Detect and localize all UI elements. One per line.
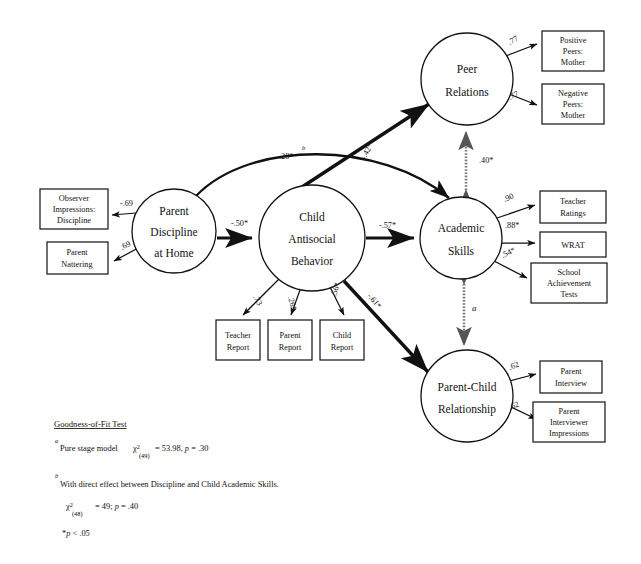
footnote-a-text: Pure stage model xyxy=(60,444,118,453)
observed-label: Nattering xyxy=(61,260,92,269)
coefficient-discipline-to-academic-superscript: b xyxy=(302,144,305,151)
observed-label: Teacher xyxy=(560,197,586,206)
coefficient-academic-teacher-ratings: .90 xyxy=(502,191,515,203)
coefficient-academic-school-tests: .54* xyxy=(500,245,517,259)
latent-label: Parent xyxy=(159,205,189,217)
coefficient-discipline-nattering: .69 xyxy=(119,239,132,252)
latent-label: Skills xyxy=(448,245,475,257)
coefficient-peer-positive: .77 xyxy=(507,34,520,47)
latent-node-parent-discipline: Parent Discipline at Home xyxy=(132,189,216,273)
path-diagram: Observer Impressions: Discipline Parent … xyxy=(0,0,641,564)
observed-label: Mother xyxy=(561,111,586,120)
latent-label: Discipline xyxy=(150,226,197,239)
observed-box-parent-interviewer-impressions: Parent Interviewer Impressions xyxy=(533,402,605,442)
latent-label: at Home xyxy=(154,247,193,259)
footnote-b-stats: = 49; p = .40 xyxy=(95,502,138,511)
latent-node-child-antisocial: Child Antisocial Behavior xyxy=(259,185,365,291)
observed-label: Parent xyxy=(66,248,88,257)
observed-box-child-report: Child Report xyxy=(320,320,364,360)
measurement-arrow-peer-positive xyxy=(503,44,537,57)
observed-label: Teacher xyxy=(225,331,251,340)
latent-label: Relationship xyxy=(438,403,496,416)
observed-label: Interviewer xyxy=(550,418,588,427)
footnote-b-marker: b xyxy=(55,472,58,479)
observed-box-teacher-report: Teacher Report xyxy=(216,320,260,360)
coefficient-discipline-to-academic: .28* xyxy=(279,152,293,161)
coefficient-discipline-to-antisocial: -.50* xyxy=(231,219,248,228)
latent-node-academic-skills: Academic Skills xyxy=(420,197,502,279)
observed-label: Interview xyxy=(555,379,587,388)
coefficient-parentchild-interview: .62 xyxy=(507,360,520,372)
observed-box-negative-peers-mother: Negative Peers: Mother xyxy=(542,84,604,124)
observed-box-parent-interview: Parent Interview xyxy=(540,361,602,393)
observed-label: Parent xyxy=(279,331,301,340)
observed-label: Tests xyxy=(561,290,578,299)
coefficient-discipline-observer: -.69 xyxy=(120,199,133,208)
latent-label: Parent-Child xyxy=(438,381,497,393)
footnote-b-df: (48) xyxy=(72,510,83,518)
significance-note: *p < .05 xyxy=(62,529,90,538)
coefficient-antisocial-to-peer: -.42* xyxy=(359,142,375,161)
latent-label: Child xyxy=(299,211,325,223)
footnote-a-marker: a xyxy=(55,437,58,444)
observed-label: WRAT xyxy=(561,241,585,250)
observed-label: Parent xyxy=(560,367,582,376)
observed-label: Child xyxy=(333,331,352,340)
coefficient-academic-wrat: .88* xyxy=(505,221,519,230)
observed-label: Impressions: xyxy=(53,205,95,214)
observed-box-observer-impressions: Observer Impressions: Discipline xyxy=(40,189,108,229)
observed-label: Ratings xyxy=(560,209,585,218)
latent-label: Relations xyxy=(445,86,489,98)
footnote-a-stats: = 53.98, p = .30 xyxy=(155,444,208,453)
observed-label: Achievement xyxy=(547,279,592,288)
observed-box-school-achievement-tests: School Achievement Tests xyxy=(531,263,607,303)
observed-box-wrat: WRAT xyxy=(540,232,606,257)
coefficient-academic-parentchild-correlation: a xyxy=(472,303,477,313)
observed-box-parent-nattering: Parent Nattering xyxy=(47,242,108,274)
coefficient-peer-academic-correlation: .40* xyxy=(479,156,493,165)
observed-label: Report xyxy=(227,343,250,352)
observed-box-teacher-ratings: Teacher Ratings xyxy=(540,191,606,223)
observed-label: Positive xyxy=(560,36,587,45)
observed-label: Peers: xyxy=(563,47,583,56)
observed-label: Peers: xyxy=(563,100,583,109)
latent-label: Antisocial xyxy=(288,233,335,245)
observed-label: School xyxy=(557,268,581,277)
coefficient-antisocial-to-academic: -.57* xyxy=(379,221,396,230)
observed-box-positive-peers-mother: Positive Peers: Mother xyxy=(542,31,604,71)
observed-box-parent-report: Parent Report xyxy=(268,320,312,360)
observed-label: Observer xyxy=(59,194,90,203)
footnote-b-text: With direct effect between Discipline an… xyxy=(60,480,279,489)
footnote-b: b With direct effect between Discipline … xyxy=(55,472,279,518)
observed-label: Negative xyxy=(558,89,588,98)
measurement-arrow-academic-teacher-ratings xyxy=(494,205,535,219)
observed-label: Report xyxy=(331,343,354,352)
latent-label: Academic xyxy=(438,222,485,234)
latent-node-parent-child-relationship: Parent-Child Relationship xyxy=(421,350,513,442)
observed-label: Report xyxy=(279,343,302,352)
footnote-a-df: (49) xyxy=(139,452,150,460)
latent-node-peer-relations: Peer Relations xyxy=(421,33,513,125)
latent-label: Behavior xyxy=(291,255,333,267)
observed-label: Parent xyxy=(558,407,580,416)
measurement-arrow-academic-school-tests xyxy=(494,261,527,278)
observed-label: Discipline xyxy=(57,216,91,225)
latent-label: Peer xyxy=(457,63,478,75)
goodness-of-fit-title: Goodness-of-Fit Test xyxy=(54,419,127,429)
footnote-a: a Pure stage model χ2 (49) = 53.98, p = … xyxy=(55,437,208,460)
observed-label: Mother xyxy=(561,58,586,67)
measurement-arrow-discipline-observer xyxy=(112,213,136,215)
observed-label: Impressions xyxy=(549,429,589,438)
